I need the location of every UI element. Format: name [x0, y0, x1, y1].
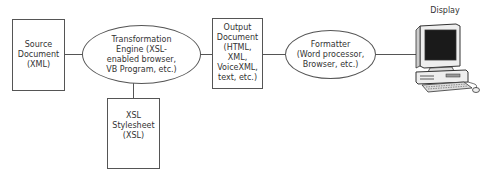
stylesheet-line-1: XSL: [126, 111, 141, 121]
display-label: Display: [420, 6, 470, 15]
stylesheet-line-3: (XSL): [123, 131, 144, 141]
stylesheet-line-2: Stylesheet: [112, 121, 154, 131]
source-line-2: Document: [18, 50, 59, 60]
edge-output-formatter: [262, 54, 285, 55]
transformation-engine-node: Transformation Engine (XSL- enabled brow…: [82, 25, 201, 84]
formatter-line-3: Browser, etc.): [303, 60, 359, 70]
computer-icon: [412, 22, 482, 98]
output-line-3: (HTML,: [224, 43, 252, 53]
source-line-3: (XML): [27, 60, 50, 70]
output-document-node: Output Document (HTML, XML, VoiceXML, te…: [212, 18, 263, 89]
edge-engine-output: [200, 54, 212, 55]
source-document-node: Source Document (XML): [12, 19, 65, 91]
engine-line-3: enabled browser,: [107, 55, 176, 65]
engine-line-2: Engine (XSL-: [116, 45, 167, 55]
xsl-stylesheet-node: XSL Stylesheet (XSL): [107, 98, 160, 169]
source-line-1: Source: [25, 40, 52, 50]
edge-engine-stylesheet: [133, 83, 134, 98]
output-line-2: Document: [217, 33, 258, 43]
formatter-line-1: Formatter: [311, 40, 351, 50]
engine-line-4: VB Program, etc.): [106, 65, 176, 75]
output-line-6: text, etc.): [218, 73, 257, 83]
output-line-5: VoiceXML,: [217, 63, 258, 73]
engine-line-1: Transformation: [111, 35, 171, 45]
output-line-4: XML,: [228, 53, 247, 63]
formatter-line-2: (Word processor,: [297, 50, 365, 60]
output-line-1: Output: [224, 23, 252, 33]
edge-formatter-display: [375, 54, 417, 55]
formatter-node: Formatter (Word processor, Browser, etc.…: [285, 30, 376, 79]
edge-source-engine: [64, 54, 82, 55]
